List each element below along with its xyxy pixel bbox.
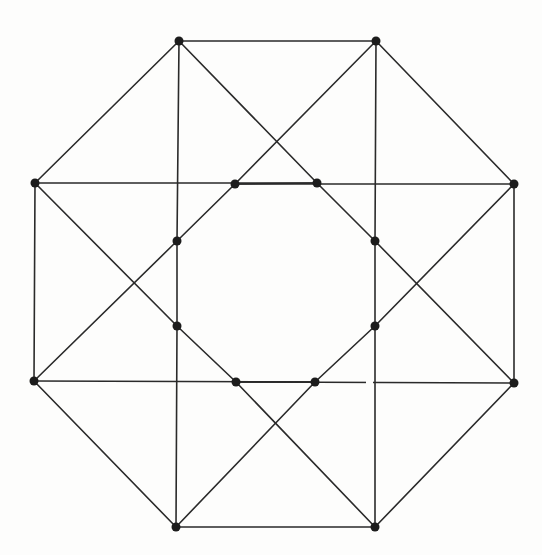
vertex-IMLL xyxy=(173,322,182,331)
edge-RU-IMLR xyxy=(375,184,514,326)
edge-IMUL-ITL xyxy=(177,184,235,241)
vertex-ITR xyxy=(313,179,322,188)
vertex-IMLR xyxy=(371,322,380,331)
vertex-LU xyxy=(31,179,40,188)
edge-TL-IMUL xyxy=(177,41,179,241)
vertex-TR xyxy=(372,37,381,46)
vertex-IMUL xyxy=(173,237,182,246)
vertex-LL xyxy=(30,377,39,386)
vertex-ITL xyxy=(231,180,240,189)
edge-LU-IMLL xyxy=(35,183,177,326)
vertex-TL xyxy=(175,37,184,46)
vertex-RU xyxy=(510,180,519,189)
edges-layer xyxy=(34,41,514,527)
edge-BR-IBL xyxy=(236,382,375,527)
edge-ITR-IMUR xyxy=(317,183,375,241)
edge-TR-RU xyxy=(376,41,514,184)
vertex-RL xyxy=(510,379,519,388)
vertex-IMUR xyxy=(371,237,380,246)
vertex-BL xyxy=(172,523,181,532)
edge-RL-IMUR xyxy=(375,241,514,383)
edge-IMLR-IBR xyxy=(315,326,375,382)
edge-TL-ITR xyxy=(179,41,317,183)
edge-LU-TL xyxy=(35,41,179,183)
edge-IBL-IMLL xyxy=(177,326,236,382)
edge-TR-IMUR xyxy=(375,41,376,241)
edge-BL-IBR xyxy=(176,382,315,527)
tesseract-graph-diagram xyxy=(0,0,542,555)
edge-TR-ITL xyxy=(235,41,376,184)
edge-LL-LU xyxy=(34,183,35,381)
vertex-IBL xyxy=(232,378,241,387)
vertex-BR xyxy=(371,523,380,532)
edge-LL-IMUL xyxy=(34,241,177,381)
edge-BL-LL xyxy=(34,381,176,527)
edge-BL-IMLL xyxy=(176,326,177,527)
vertices-layer xyxy=(30,37,519,532)
vertex-IBR xyxy=(311,378,320,387)
edge-RL-BR xyxy=(375,383,514,527)
